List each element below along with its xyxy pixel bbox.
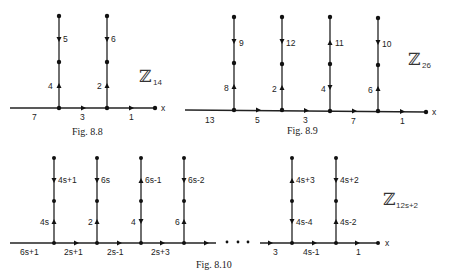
arrow-up-icon bbox=[334, 219, 339, 224]
edge-label: 6s-2 bbox=[188, 175, 205, 185]
arrow-down-icon bbox=[182, 178, 187, 183]
arrow-up-icon bbox=[52, 219, 57, 224]
edge-label: 6 bbox=[175, 217, 180, 227]
arrow-right-icon bbox=[400, 109, 405, 114]
edge-label: 2 bbox=[97, 81, 102, 91]
edge-label: 6s-1 bbox=[145, 175, 162, 185]
vertex-dot bbox=[376, 16, 380, 20]
edge-label: 6s+1 bbox=[20, 247, 39, 257]
group-subscript: 14 bbox=[153, 78, 162, 87]
vertex-dot bbox=[280, 108, 284, 112]
vertex-dot bbox=[328, 109, 332, 113]
edge-label: 2s-1 bbox=[107, 247, 124, 257]
arrow-right-icon bbox=[312, 241, 317, 246]
group-subscript: 26 bbox=[422, 61, 431, 70]
edge-label: 5 bbox=[255, 115, 260, 125]
vertex-dot bbox=[328, 15, 332, 19]
arrow-down-icon bbox=[105, 37, 110, 42]
figure-8-10: 4s+1 4s 6s 2 6s-1 4 6s-2 6 4s+3 4s-4 4s+… bbox=[10, 156, 419, 270]
edge-label: 1 bbox=[356, 247, 361, 257]
arrow-down-icon bbox=[280, 39, 285, 44]
figure-caption: Fig. 8.9 bbox=[287, 125, 318, 136]
edge-label: 4s-4 bbox=[296, 217, 313, 227]
vertex-dot bbox=[105, 106, 109, 110]
arrow-right-icon bbox=[355, 241, 360, 246]
arrow-up-icon bbox=[105, 83, 110, 88]
arrow-right-icon bbox=[160, 241, 165, 246]
arrow-right-icon bbox=[256, 108, 261, 113]
group-label: ℤ bbox=[383, 189, 395, 209]
arrow-up-icon bbox=[182, 219, 187, 224]
group-subscript: 12s+2 bbox=[396, 201, 419, 210]
edge-label: 3 bbox=[80, 112, 85, 122]
edge-label: 6 bbox=[368, 85, 373, 95]
edge-label: 4s bbox=[40, 217, 49, 227]
arrow-right-icon bbox=[129, 106, 134, 111]
arrow-up-icon bbox=[280, 85, 285, 90]
ellipsis-dot bbox=[226, 241, 229, 244]
arrow-down-icon bbox=[57, 37, 62, 42]
vertex-dot bbox=[232, 61, 236, 65]
arrow-right-icon bbox=[117, 241, 122, 246]
arrow-right-icon bbox=[81, 106, 86, 111]
edge-label: 2s+1 bbox=[64, 247, 83, 257]
edge-label: 7 bbox=[32, 112, 37, 122]
edge-label: 6 bbox=[111, 34, 116, 44]
vertex-dot bbox=[57, 106, 61, 110]
edge-label: 1 bbox=[400, 116, 405, 126]
figures-canvas: 5 4 6 2 7 3 1 x ℤ 14 Fig. 8.8 bbox=[0, 0, 449, 277]
edge-label: 4 bbox=[48, 81, 53, 91]
arrow-right-icon bbox=[352, 109, 357, 114]
vertex-dot bbox=[57, 14, 61, 18]
ellipsis-dot bbox=[247, 241, 250, 244]
vertex-dot bbox=[424, 110, 428, 114]
edge-label: 3 bbox=[303, 115, 308, 125]
arrow-up-icon bbox=[57, 83, 62, 88]
ellipsis-dot bbox=[237, 241, 240, 244]
group-label: ℤ bbox=[408, 49, 420, 69]
edge-label: 8 bbox=[224, 83, 229, 93]
axis-label: x bbox=[385, 238, 390, 248]
vertex-dot bbox=[232, 15, 236, 19]
arrow-up-icon bbox=[328, 40, 333, 45]
vertex-dot bbox=[105, 14, 109, 18]
edge-label: 10 bbox=[382, 39, 392, 49]
arrow-down-icon bbox=[376, 40, 381, 45]
edge-label: 1 bbox=[129, 112, 134, 122]
vertex-dot bbox=[57, 60, 61, 64]
arrow-down-icon bbox=[232, 39, 237, 44]
edge-label: 4 bbox=[131, 217, 136, 227]
edge-label: 5 bbox=[63, 34, 68, 44]
figure-8-9: 9 8 12 2 11 4 10 6 13 5 3 7 1 x ℤ 26 Fig… bbox=[185, 15, 437, 136]
edge-label: 2 bbox=[272, 84, 277, 94]
vertex-dot bbox=[232, 108, 236, 112]
figure-caption: Fig. 8.10 bbox=[196, 259, 232, 270]
edge-label: 4s-2 bbox=[340, 217, 357, 227]
axis-label: x bbox=[432, 107, 437, 117]
arrow-up-icon bbox=[139, 178, 144, 183]
vertex-dot bbox=[153, 106, 157, 110]
arrow-down-icon bbox=[95, 178, 100, 183]
axis-label: x bbox=[161, 103, 166, 113]
arrow-down-icon bbox=[290, 219, 295, 224]
vertex-dots bbox=[52, 156, 380, 245]
edge-label: 2s+3 bbox=[151, 247, 170, 257]
arrow-up-icon bbox=[376, 86, 381, 91]
arrow-down-icon bbox=[139, 219, 144, 224]
arrow-up-icon bbox=[290, 178, 295, 183]
arrow-up-icon bbox=[232, 84, 237, 89]
vertex-dot bbox=[376, 109, 380, 113]
edge-label: 12 bbox=[286, 38, 296, 48]
arrow-right-icon bbox=[268, 241, 273, 246]
vertex-dot bbox=[280, 62, 284, 66]
vertex-dot bbox=[105, 60, 109, 64]
arrow-down-icon bbox=[52, 178, 57, 183]
figure-caption: Fig. 8.8 bbox=[72, 126, 103, 137]
arrow-right-icon bbox=[74, 241, 79, 246]
arrow-down-icon bbox=[334, 178, 339, 183]
edge-label: 6s bbox=[101, 175, 110, 185]
arrow-up-icon bbox=[95, 219, 100, 224]
vertex-dot bbox=[280, 15, 284, 19]
edge-label: 4s+2 bbox=[340, 175, 359, 185]
edge-label: 4s+3 bbox=[296, 175, 315, 185]
